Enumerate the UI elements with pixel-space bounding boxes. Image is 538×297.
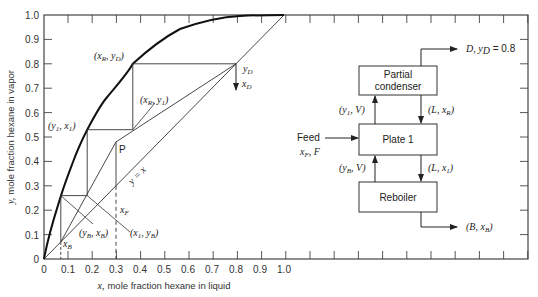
y-tick-labels: 0 0.1 0.2 0.3 0.4 0.5 0.6 0.7 0.8 0.9 1.… <box>25 10 39 265</box>
rectifying-operating-line <box>116 64 236 142</box>
vapor-bottom-label: (yB, V) <box>339 162 366 175</box>
label-y-equals-x: y = x <box>125 164 148 187</box>
mccabe-thiele-figure: 0 0.1 0.2 0.3 0.4 0.5 0.6 0.7 0.8 0.9 1.… <box>0 0 538 297</box>
y-tick-1.0: 1.0 <box>25 10 39 21</box>
distillate-arrow <box>421 49 457 66</box>
y-tick-0.9: 0.9 <box>25 34 39 45</box>
x-tick-0.8: 0.8 <box>229 264 243 275</box>
label-yB-xB: (yB, xB) <box>79 227 109 240</box>
x-tick-0.7: 0.7 <box>205 264 219 275</box>
y-tick-0.2: 0.2 <box>25 205 39 216</box>
x-tick-0.3: 0.3 <box>109 264 123 275</box>
axis-ticks <box>44 15 528 259</box>
condenser-label-1: Partial <box>384 69 412 80</box>
vapor-top-label: (y1, V) <box>339 104 365 117</box>
distillate-label: D, yD = 0.8 <box>465 43 516 56</box>
liquid-bottom-label: (L, x1) <box>428 162 454 175</box>
y-tick-0.8: 0.8 <box>25 59 39 70</box>
plate-1-label: Plate 1 <box>382 134 414 145</box>
label-yD: yD <box>242 63 253 76</box>
x-tick-0.1: 0.1 <box>61 264 75 275</box>
pointer-yB-xB <box>61 196 93 224</box>
reboiler-label: Reboiler <box>379 192 417 203</box>
liquid-top-label: (L, xR) <box>428 104 455 117</box>
y-tick-0.3: 0.3 <box>25 181 39 192</box>
label-x1-yB: (x1, yB) <box>130 227 159 240</box>
feed-label: Feed <box>297 132 320 143</box>
y-tick-0.1: 0.1 <box>25 230 39 241</box>
condenser-label-2: condenser <box>375 81 422 92</box>
diagonal-y-equals-x <box>44 15 284 259</box>
y-tick-0.6: 0.6 <box>25 108 39 119</box>
plot-frame <box>44 15 528 259</box>
x-tick-0.4: 0.4 <box>133 264 147 275</box>
y-tick-0: 0 <box>33 254 39 265</box>
label-P: P <box>119 144 126 155</box>
label-xD: xD <box>241 78 252 91</box>
x-tick-0.9: 0.9 <box>253 264 267 275</box>
x-tick-0: 0 <box>41 264 47 275</box>
y-axis-title: y,mole fraction hexane in vapor <box>5 70 16 205</box>
x-tick-0.5: 0.5 <box>157 264 171 275</box>
y-tick-0.7: 0.7 <box>25 83 39 94</box>
x-axis-title: x,mole fraction hexane in liquid <box>97 280 231 291</box>
feed-vars-label: xF, F <box>299 146 321 159</box>
y-tick-0.5: 0.5 <box>25 132 39 143</box>
label-xF: xF <box>119 204 129 217</box>
label-xR-yD: (xR, yD) <box>94 50 125 63</box>
label-xR-y1: (xR, y1) <box>140 94 169 107</box>
label-xB: xB <box>62 238 72 251</box>
column-diagram: Partial condenser Plate 1 Reboiler D, yD… <box>297 43 516 234</box>
bottoms-arrow <box>421 212 457 227</box>
x-tick-0.6: 0.6 <box>181 264 195 275</box>
x-tick-0.2: 0.2 <box>85 264 99 275</box>
y-tick-0.4: 0.4 <box>25 156 39 167</box>
pointer-xR-y1 <box>133 103 155 130</box>
label-y1-x1: (y1, x1) <box>48 120 76 133</box>
x-tick-1.0: 1.0 <box>277 264 291 275</box>
bottoms-label: (B, xB) <box>466 221 493 234</box>
x-tick-labels: 0 0.1 0.2 0.3 0.4 0.5 0.6 0.7 0.8 0.9 1.… <box>41 264 291 275</box>
